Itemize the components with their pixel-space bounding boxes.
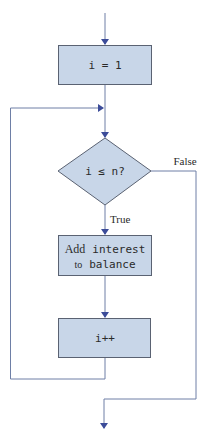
condition-label: i ≤ n? [85,165,125,178]
false-edge [104,171,196,428]
false-label: False [173,155,196,167]
init-node: i = 1 [59,46,152,85]
body-word-to: to [74,259,82,270]
increment-label: i++ [95,332,115,345]
increment-node: i++ [59,319,151,358]
flowchart: i = 1 i ≤ n? False True Add interest to … [0,0,215,446]
init-label: i = 1 [88,59,121,72]
body-node: Add interest to balance [59,236,152,276]
true-label: True [110,213,130,225]
condition-node: i ≤ n? [58,138,151,205]
body-word-balance: balance [89,258,135,271]
body-word-interest: interest [92,243,145,256]
